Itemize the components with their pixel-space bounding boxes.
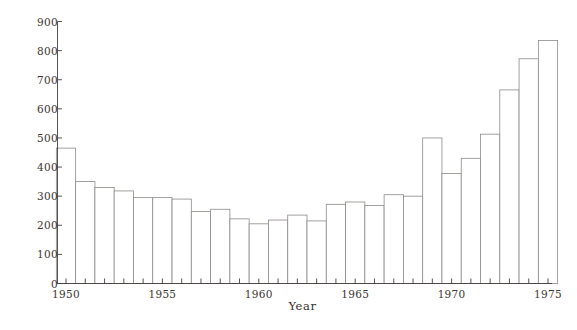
bar [288, 215, 307, 283]
bars-group [56, 40, 557, 283]
y-tick-label: 100 [28, 248, 58, 260]
y-tick-label: 700 [28, 74, 58, 86]
bar [346, 202, 365, 284]
y-tick-label: 600 [28, 103, 58, 115]
bar [153, 198, 172, 284]
bar [268, 220, 287, 283]
bar [326, 204, 345, 283]
bar [133, 198, 152, 284]
bar [114, 191, 133, 284]
bar [76, 182, 95, 284]
bar-chart-figure: Cases 0100200300400500600700800900 19501… [0, 0, 577, 330]
bar [538, 40, 557, 283]
x-axis-title: Year [0, 299, 577, 313]
plot-area [0, 0, 577, 330]
bar [423, 138, 442, 284]
bar [481, 134, 500, 283]
bar [519, 59, 538, 284]
bar [461, 158, 480, 283]
y-tick-label: 500 [28, 132, 58, 144]
bar [384, 195, 403, 284]
bar [230, 219, 249, 284]
bar [56, 148, 75, 283]
y-tick-label: 300 [28, 190, 58, 202]
bar [95, 187, 114, 283]
bar [442, 173, 461, 283]
y-tick-label: 900 [28, 16, 58, 28]
bar [307, 221, 326, 284]
y-tick-label: 200 [28, 219, 58, 231]
y-tick-label: 400 [28, 161, 58, 173]
bar [365, 205, 384, 283]
y-axis-tick-labels: 0100200300400500600700800900 [26, 0, 58, 330]
bar [500, 90, 519, 284]
bar [211, 209, 230, 283]
bar [191, 212, 210, 284]
bar [172, 199, 191, 283]
bar [249, 224, 268, 284]
bar [403, 196, 422, 283]
y-tick-label: 800 [28, 45, 58, 57]
